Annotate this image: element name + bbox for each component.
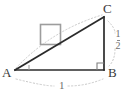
height-length-label: 1 2 — [111, 29, 125, 51]
fraction-numerator: 1 — [116, 29, 121, 40]
right-angle-marker-B — [97, 63, 104, 70]
geometry-figure: A B C 1 1 2 — [0, 0, 131, 95]
base-measure-arc-right — [68, 79, 103, 86]
hypotenuse-guide-arc — [16, 15, 102, 68]
vertex-label-B: B — [108, 66, 117, 79]
fraction-one-half: 1 2 — [116, 29, 121, 51]
vertex-label-A: A — [2, 66, 11, 79]
height-measure-arc-bottom — [109, 49, 115, 66]
base-measure-arc-left — [16, 79, 54, 86]
fraction-denominator: 2 — [116, 41, 121, 52]
base-length-label: 1 — [59, 80, 65, 91]
vertex-label-C: C — [103, 2, 112, 15]
